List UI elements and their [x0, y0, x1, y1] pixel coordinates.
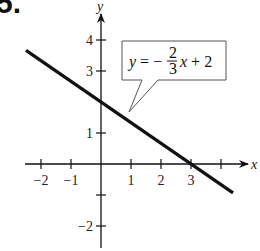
x-axis-label: x — [250, 157, 258, 172]
callout-equation: y = − — [127, 53, 162, 71]
x-tick-label: 3 — [188, 173, 195, 188]
y-axis-ticks: −2134 — [78, 33, 106, 234]
fraction-numerator: 2 — [169, 44, 177, 61]
y-tick-label: 4 — [86, 33, 93, 48]
x-tick-label: −1 — [64, 173, 79, 188]
x-tick-label: 2 — [158, 173, 165, 188]
y-tick-label: 1 — [86, 126, 93, 141]
y-tick-label: −2 — [78, 219, 93, 234]
y-tick-label: 3 — [86, 64, 93, 79]
y-axis-label: y — [95, 0, 104, 14]
x-tick-label: −2 — [34, 173, 49, 188]
callout-equation-suffix: x + 2 — [179, 53, 212, 70]
equation-callout: y = − 2 3 x + 2 — [122, 41, 226, 112]
graph: −2−1123 −2134 x y y = − 2 3 x + 2 — [0, 0, 260, 251]
fraction-denominator: 3 — [169, 60, 177, 77]
x-tick-label: 1 — [128, 173, 135, 188]
